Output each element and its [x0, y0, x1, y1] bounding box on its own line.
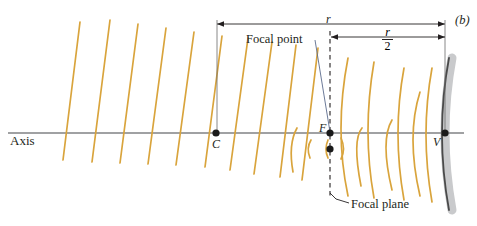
wavefront-arc: [341, 58, 348, 196]
incoming-plane-wavefronts: [63, 20, 272, 174]
focal-plane-leader: [330, 193, 349, 203]
diverging-wavefronts: [341, 58, 432, 202]
arrowhead-left: [217, 21, 224, 27]
point-marker-V: [441, 129, 448, 136]
wavefront-line: [254, 42, 272, 174]
axis-label: Axis: [10, 134, 35, 147]
vertex-label: V: [433, 136, 440, 148]
arrowhead-left: [331, 34, 338, 40]
diagram-canvas: [0, 0, 477, 226]
panel-label: (b): [455, 14, 470, 27]
wavefront-arc: [413, 92, 420, 196]
wavefront-line: [63, 22, 80, 160]
wavefront-arc: [357, 128, 362, 186]
wavefront-line: [280, 45, 296, 177]
arrowhead-right: [438, 21, 445, 27]
wavefront-line: [148, 28, 166, 164]
wavefront-arc: [386, 120, 392, 190]
radius-dimension-label: r: [326, 13, 331, 25]
focal-point-label: F: [319, 122, 326, 134]
point-marker-F: [326, 129, 333, 136]
optics-figure: Axis C F V Focal point Focal plane (b) r…: [0, 0, 477, 226]
arrowhead-right: [438, 34, 445, 40]
point-marker-focal-plane: [326, 145, 333, 152]
fraction-numerator: r: [382, 26, 393, 39]
point-marker-C: [212, 129, 219, 136]
wavefront-arc: [426, 68, 432, 202]
wavefront-line: [120, 24, 138, 163]
wavefront-line: [230, 38, 248, 170]
wavefront-arc: [398, 68, 404, 200]
converging-wavefronts: [280, 45, 344, 180]
focal-point-leader: [315, 40, 330, 132]
wavefront-line: [176, 32, 194, 165]
wavefront-line: [92, 20, 110, 162]
focal-point-callout: Focal point: [246, 33, 303, 46]
fraction-denominator: 2: [382, 40, 393, 53]
wavefront-arc: [308, 140, 311, 158]
wavefront-arc: [368, 62, 374, 198]
center-of-curvature-label: C: [212, 138, 220, 150]
wavefront-arc: [291, 128, 297, 172]
wavefront-line: [302, 48, 318, 180]
half-radius-dimension-label: r 2: [382, 26, 393, 52]
focal-plane-callout: Focal plane: [351, 198, 409, 211]
